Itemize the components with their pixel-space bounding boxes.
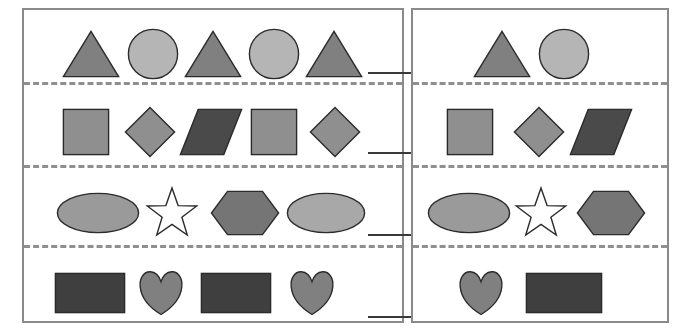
ellipse-shape xyxy=(56,192,140,234)
rectangle-shape xyxy=(525,272,603,314)
diamond-shape xyxy=(513,106,565,158)
ellipse-shape xyxy=(427,192,511,234)
circle-shape xyxy=(248,28,300,80)
hexagon-shape xyxy=(576,190,646,236)
answer-blank-line[interactable] xyxy=(368,234,412,236)
rectangle-shape xyxy=(54,272,126,314)
hexagon-shape xyxy=(210,190,280,236)
heart-shape xyxy=(135,268,187,316)
parallelogram-shape xyxy=(179,108,243,156)
square-shape xyxy=(250,108,298,156)
row-divider-dashed-line xyxy=(413,245,667,248)
heart-shape xyxy=(286,268,338,316)
worksheet-page xyxy=(0,0,679,335)
right-pattern-panel xyxy=(411,8,669,323)
square-shape xyxy=(446,108,494,156)
circle-shape xyxy=(127,28,179,80)
rectangle-shape xyxy=(200,272,272,314)
star-shape xyxy=(144,186,200,240)
triangle-shape xyxy=(184,30,242,78)
triangle-shape xyxy=(305,30,363,78)
row-divider-dashed-line xyxy=(413,165,667,168)
diamond-shape xyxy=(124,106,176,158)
row-divider-dashed-line xyxy=(24,245,402,248)
heart-shape xyxy=(455,268,507,316)
triangle-shape xyxy=(473,30,531,78)
ellipse-shape xyxy=(286,192,366,234)
triangle-shape xyxy=(62,30,120,78)
circle-shape xyxy=(538,28,590,80)
parallelogram-shape xyxy=(569,108,633,156)
answer-blank-line[interactable] xyxy=(368,152,412,154)
square-shape xyxy=(62,108,110,156)
star-shape xyxy=(513,186,569,240)
diamond-shape xyxy=(309,106,361,158)
answer-blank-line[interactable] xyxy=(368,72,412,74)
left-pattern-panel xyxy=(22,8,404,323)
row-divider-dashed-line xyxy=(413,82,667,85)
row-divider-dashed-line xyxy=(24,82,402,85)
row-divider-dashed-line xyxy=(24,165,402,168)
answer-blank-line[interactable] xyxy=(368,316,412,318)
